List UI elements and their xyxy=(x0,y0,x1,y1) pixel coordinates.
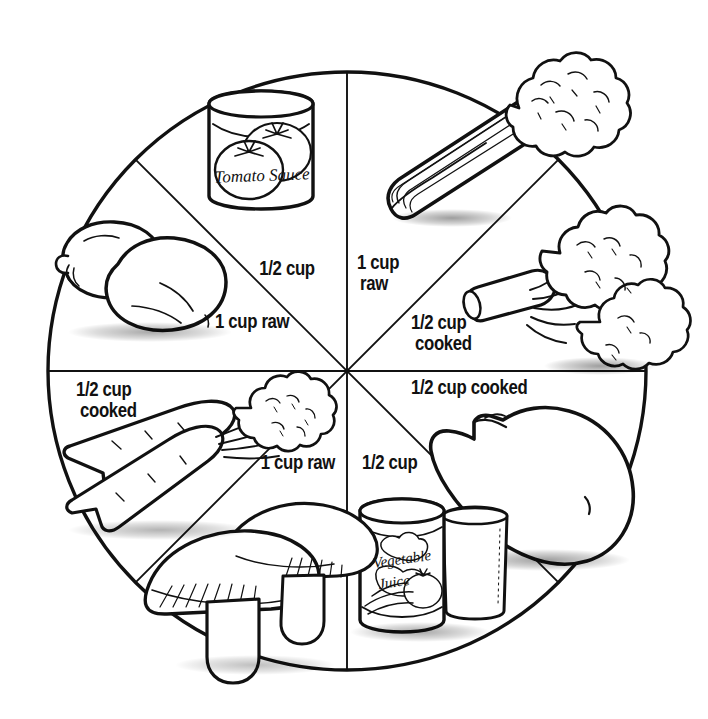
label-bell-peppers-serving: 1 cup raw xyxy=(215,311,289,331)
tomato-sauce-can-label-text: Tomato Sauce xyxy=(206,164,319,188)
label-squash-serving: 1/2 cup cooked xyxy=(411,377,527,397)
label-tomato-sauce-serving: 1/2 cup xyxy=(240,258,335,278)
wheel-diagram xyxy=(0,0,708,719)
label-vegetable-juice-serving: 1/2 cup xyxy=(362,452,417,472)
label-broccoli-serving-line1: 1/2 cup xyxy=(411,312,466,332)
label-carrots-serving-line1: 1/2 cup xyxy=(76,379,131,399)
tomato-sauce-can-illustration xyxy=(209,91,313,209)
label-celery-serving-line2: raw xyxy=(360,273,388,293)
bell-peppers-illustration xyxy=(56,222,232,342)
label-carrots-serving-line2: cooked xyxy=(80,400,137,420)
label-mushrooms-serving: 1 cup raw xyxy=(185,452,336,472)
vegetable-serving-wheel-figure: 1/2 cup 1 cup raw 1/2 cup cooked 1/2 cup… xyxy=(0,0,708,719)
broccoli-illustration xyxy=(461,206,691,375)
label-broccoli-serving-line2: cooked xyxy=(415,333,472,353)
label-celery-serving-line1: 1 cup xyxy=(357,252,399,272)
